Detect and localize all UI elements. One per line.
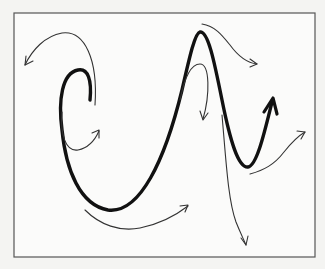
diagram-figure [0,0,325,269]
diagram-canvas [0,0,325,269]
